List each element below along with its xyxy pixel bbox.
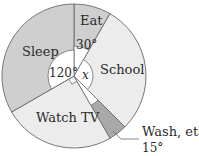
pie-chart: Eat 30° Sleep 120° x School Watch TV Was… bbox=[0, 0, 199, 156]
label-wash: Wash, etc bbox=[142, 124, 199, 139]
label-watch-tv: Watch TV bbox=[36, 110, 100, 125]
label-angle-sleep: 120° bbox=[49, 66, 78, 80]
label-angle-school: x bbox=[82, 68, 89, 82]
label-wash-angle: 15° bbox=[142, 141, 163, 155]
label-sleep: Sleep bbox=[22, 44, 59, 59]
label-eat: Eat bbox=[80, 13, 103, 28]
label-school: School bbox=[100, 62, 144, 77]
label-angle-eat: 30° bbox=[76, 38, 97, 52]
